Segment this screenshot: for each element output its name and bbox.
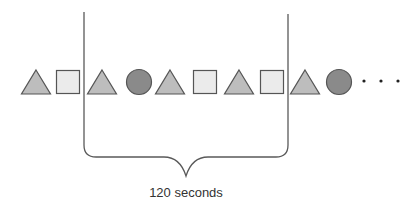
- circle-icon: [327, 70, 352, 95]
- continuation-dots: [362, 79, 399, 82]
- window-duration-label: 120 seconds: [149, 185, 223, 200]
- ellipsis-dot-icon: [379, 79, 382, 82]
- square-icon: [57, 71, 80, 94]
- circle-icon: [127, 70, 152, 95]
- ellipsis-dot-icon: [362, 79, 365, 82]
- time-window-diagram: 120 seconds: [0, 0, 416, 205]
- triangle-icon: [225, 70, 254, 94]
- triangle-icon: [156, 70, 185, 94]
- square-icon: [194, 71, 217, 94]
- event-sequence: [22, 70, 352, 95]
- triangle-icon: [22, 70, 51, 94]
- triangle-icon: [291, 70, 320, 94]
- triangle-icon: [88, 70, 117, 94]
- ellipsis-dot-icon: [396, 79, 399, 82]
- square-icon: [261, 71, 284, 94]
